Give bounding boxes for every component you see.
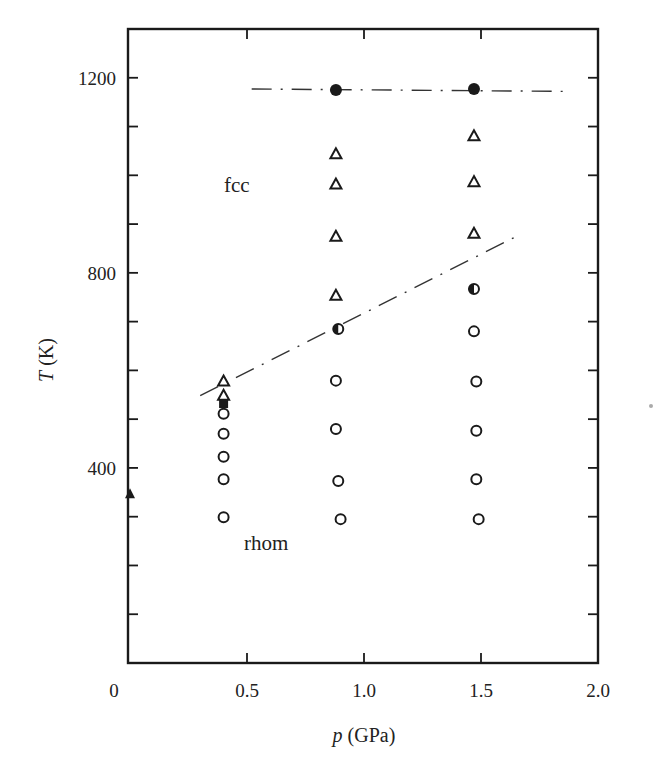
open-circle-marker (474, 514, 484, 524)
x-tick-label: 1.5 (469, 680, 493, 701)
dash-dot-line (252, 89, 570, 91)
open-triangle-marker (468, 228, 479, 238)
open-circle-marker (219, 474, 229, 484)
y-tick-label: 800 (88, 263, 117, 284)
axis-ticks (128, 29, 598, 663)
plot-border (128, 29, 598, 663)
filled-circle-marker (468, 83, 480, 95)
open-circle-marker (219, 409, 229, 419)
y-tick-labels: 4008001200 (78, 68, 116, 479)
open-circle-marker (471, 474, 481, 484)
open-circle-marker (471, 426, 481, 436)
open-circle-marker (469, 326, 479, 336)
data-markers (125, 83, 484, 524)
y-tick-label: 1200 (78, 68, 116, 89)
open-triangle-marker (218, 390, 229, 400)
x-tick-label: 0 (109, 680, 119, 701)
open-triangle-marker (330, 179, 341, 189)
filled-triangle-marker (125, 488, 135, 498)
open-circle-marker (219, 452, 229, 462)
open-triangle-marker (468, 176, 479, 186)
dash-dot-line (200, 238, 514, 396)
stray-dot (649, 404, 653, 408)
boundary-lines (200, 89, 570, 396)
y-tick-label: 400 (88, 458, 117, 479)
x-tick-labels: 00.51.01.52.0 (109, 680, 610, 701)
x-axis-title: p (GPa) (331, 724, 396, 747)
open-circle-marker (331, 424, 341, 434)
plot-frame (128, 29, 598, 663)
open-triangle-marker (330, 290, 341, 300)
open-circle-marker (219, 429, 229, 439)
open-circle-marker (219, 512, 229, 522)
x-tick-label: 0.5 (235, 680, 259, 701)
filled-square-marker (219, 399, 228, 408)
y-axis-title: T (K) (35, 338, 58, 382)
filled-circle-marker (330, 84, 342, 96)
open-circle-marker (331, 376, 341, 386)
x-tick-label: 1.0 (352, 680, 376, 701)
open-circle-marker (471, 377, 481, 387)
fcc-region-label: fcc (224, 173, 250, 197)
open-triangle-marker (218, 376, 229, 386)
open-circle-marker (336, 514, 346, 524)
open-circle-marker (333, 476, 343, 486)
open-triangle-marker (468, 130, 479, 140)
open-triangle-marker (330, 148, 341, 158)
phase-diagram-chart: 00.51.01.52.0 4008001200 p (GPa) T (K) f… (0, 0, 659, 768)
x-tick-label: 2.0 (586, 680, 610, 701)
open-triangle-marker (330, 231, 341, 241)
rhom-region-label: rhom (244, 531, 288, 555)
